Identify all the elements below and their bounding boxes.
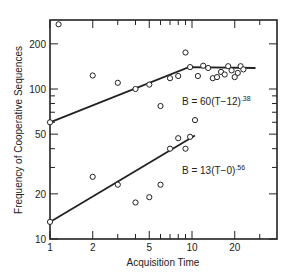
data-point-lower: [133, 200, 138, 205]
scatter-chart: 1251020 102050100200 B = 60(T−12).38 B =…: [0, 0, 292, 273]
data-point-upper: [133, 86, 138, 91]
y-tick-label: 100: [29, 84, 46, 95]
data-point-upper: [183, 50, 188, 55]
y-axis-ticks: 102050100200: [29, 39, 277, 245]
data-point-upper: [229, 68, 234, 73]
y-tick-label: 200: [29, 39, 46, 50]
data-point-upper: [115, 80, 120, 85]
x-axis-ticks: 1251020: [47, 20, 260, 253]
equation-lower: B = 13(T−0).56: [182, 164, 245, 176]
data-point-upper: [214, 75, 219, 80]
data-point-upper: [206, 65, 211, 70]
y-tick-label: 50: [35, 129, 47, 140]
data-point-lower: [183, 146, 188, 151]
data-points: [47, 22, 246, 225]
x-tick-label: 10: [186, 242, 198, 253]
data-point-upper: [235, 70, 240, 75]
fit-lines: [50, 67, 256, 222]
data-point-upper: [241, 67, 246, 72]
data-point-lower: [188, 134, 193, 139]
data-point-upper: [158, 103, 163, 108]
equation-upper: B = 60(T−12).38: [182, 95, 251, 107]
y-tick-label: 10: [35, 234, 47, 245]
data-point-upper: [176, 73, 181, 78]
x-tick-label: 1: [47, 242, 53, 253]
fit-line-lower: [50, 136, 195, 222]
data-point-lower: [176, 136, 181, 141]
data-point-upper: [167, 76, 172, 81]
plot-border: [50, 20, 277, 239]
data-point-upper: [195, 73, 200, 78]
data-point-lower: [115, 182, 120, 187]
data-point-lower: [90, 174, 95, 179]
plot-frame: [50, 20, 277, 239]
data-point-upper: [90, 73, 95, 78]
data-point-upper: [188, 65, 193, 70]
data-point-upper: [222, 72, 227, 77]
y-tick-label: 20: [35, 189, 47, 200]
data-point-upper: [147, 82, 152, 87]
y-axis-title: Frequency of Cooperative Sequences: [13, 46, 24, 214]
x-tick-label: 5: [146, 242, 152, 253]
x-tick-label: 20: [229, 242, 241, 253]
data-point-lower: [192, 118, 197, 123]
data-point-lower: [147, 195, 152, 200]
x-tick-label: 2: [90, 242, 96, 253]
data-point-upper: [47, 120, 52, 125]
data-point-lower: [167, 146, 172, 151]
x-axis-title: Acquisition Time: [127, 257, 200, 268]
data-point-lower: [158, 182, 163, 187]
data-point-upper: [201, 63, 206, 68]
data-point-lower: [47, 219, 52, 224]
data-point-upper: [56, 22, 61, 27]
